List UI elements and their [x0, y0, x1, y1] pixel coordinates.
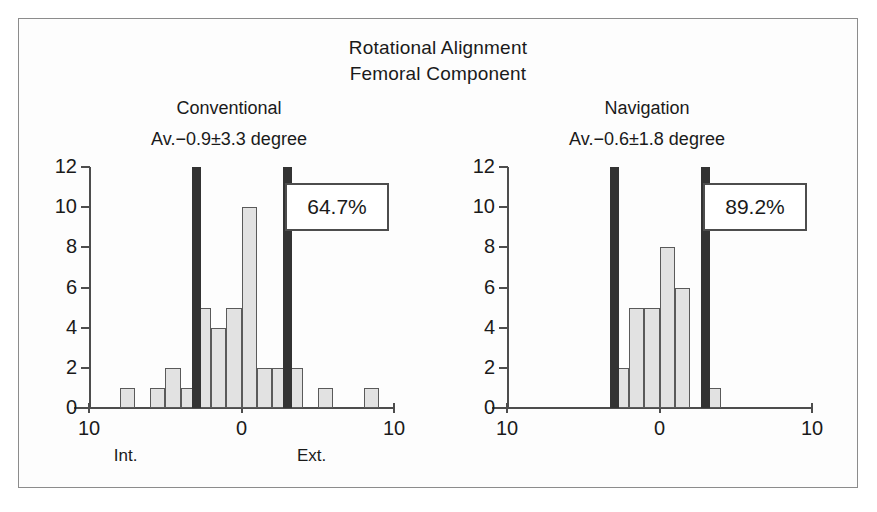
threshold-marker	[610, 167, 619, 408]
y-axis-tick-label: 2	[455, 357, 495, 377]
threshold-marker	[192, 167, 201, 408]
figure-frame: Rotational Alignment Femoral Component C…	[18, 18, 858, 488]
panel-title-conventional: Conventional	[176, 98, 281, 118]
panel-subtitle-conventional: Av.−0.9±3.3 degree	[29, 124, 429, 155]
figure-title-line2: Femoral Component	[19, 61, 857, 87]
panel-conventional: Conventional Av.−0.9±3.3 degree 02468101…	[29, 93, 429, 473]
histogram-bar	[318, 388, 333, 408]
percent-annotation-box: 89.2%	[703, 183, 807, 231]
histogram-bar	[120, 388, 135, 408]
y-axis-tick-label: 4	[37, 317, 77, 337]
x-axis-tick-label: 10	[364, 417, 424, 439]
panel-heading-conventional: Conventional Av.−0.9±3.3 degree	[29, 93, 429, 155]
histogram-bar	[211, 328, 226, 408]
y-axis-tick-label: 10	[37, 196, 77, 216]
figure-title: Rotational Alignment Femoral Component	[19, 35, 857, 87]
histogram-bar	[364, 388, 379, 408]
figure-title-line1: Rotational Alignment	[19, 35, 857, 61]
y-axis-tick-label: 2	[37, 357, 77, 377]
y-axis-tick-label: 8	[37, 236, 77, 256]
x-axis-direction-label-internal: Int.	[91, 447, 161, 465]
panel-title-navigation: Navigation	[604, 98, 689, 118]
y-axis-tick-label: 12	[455, 156, 495, 176]
y-axis-tick-label: 4	[455, 317, 495, 337]
y-axis-tick-label: 0	[455, 397, 495, 417]
x-axis-tick-label: 10	[782, 417, 842, 439]
histogram-bar	[226, 308, 241, 408]
x-axis-tick-label: 10	[477, 417, 537, 439]
histogram-bar	[150, 388, 165, 408]
y-axis-tick-label: 12	[37, 156, 77, 176]
panel-subtitle-navigation: Av.−0.6±1.8 degree	[447, 124, 847, 155]
x-axis-tick-label: 0	[212, 417, 272, 439]
percent-annotation-box: 64.7%	[285, 183, 389, 231]
y-axis-tick-label: 6	[37, 277, 77, 297]
x-axis-tick-label: 0	[630, 417, 690, 439]
x-axis-direction-label-external: Ext.	[277, 447, 347, 465]
histogram-bar	[660, 247, 675, 408]
panel-heading-navigation: Navigation Av.−0.6±1.8 degree	[447, 93, 847, 155]
y-axis-tick-label: 8	[455, 236, 495, 256]
histogram-bar	[629, 308, 644, 408]
histogram-bar	[257, 368, 272, 408]
panel-navigation: Navigation Av.−0.6±1.8 degree 0246810121…	[447, 93, 847, 473]
x-axis-tick-label: 10	[59, 417, 119, 439]
histogram-bar	[644, 308, 659, 408]
y-axis-tick-label: 0	[37, 397, 77, 417]
plot-area-navigation: 0246810121001089.2%	[447, 159, 847, 459]
y-axis-tick-label: 6	[455, 277, 495, 297]
histogram-bar	[242, 207, 257, 408]
histogram-bar	[675, 288, 690, 409]
plot-area-conventional: 02468101210010Int.Ext.64.7%	[29, 159, 429, 459]
histogram-bar	[165, 368, 180, 408]
y-axis-tick-label: 10	[455, 196, 495, 216]
